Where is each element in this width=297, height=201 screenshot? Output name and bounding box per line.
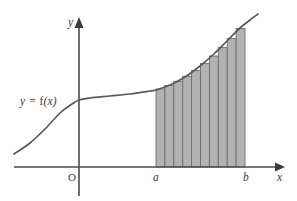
riemann-rectangle bbox=[218, 48, 227, 167]
riemann-rectangle bbox=[183, 76, 192, 167]
lower-limit-label: a bbox=[153, 172, 159, 184]
origin-label: O bbox=[68, 172, 76, 183]
riemann-rectangle bbox=[236, 29, 245, 168]
upper-limit-label: b bbox=[243, 172, 249, 184]
y-axis-label: y bbox=[68, 17, 73, 29]
y-axis-arrow-icon bbox=[75, 17, 84, 28]
riemann-rectangle bbox=[201, 64, 210, 167]
riemann-rectangle bbox=[165, 86, 174, 168]
riemann-rectangle bbox=[192, 70, 201, 167]
x-axis-label: x bbox=[277, 172, 282, 184]
riemann-rectangle bbox=[174, 81, 183, 167]
riemann-rectangles bbox=[156, 29, 245, 168]
riemann-rectangle bbox=[227, 38, 236, 167]
riemann-sum-figure: y = f(x) y x O a b bbox=[0, 0, 297, 201]
riemann-rectangle bbox=[209, 56, 218, 167]
curve-label: y = f(x) bbox=[20, 96, 57, 108]
riemann-rectangle bbox=[156, 89, 165, 167]
